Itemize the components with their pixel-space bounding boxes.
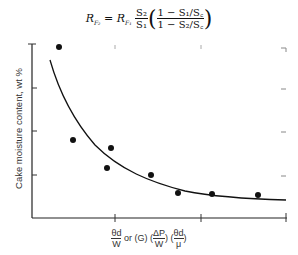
x-label-end: ) xyxy=(184,233,187,243)
x-axis-label: θdW or (G) (ΔPW) (θdμ) xyxy=(0,228,298,249)
x-frac3-num: θd xyxy=(174,228,184,239)
x-frac2-num: ΔP xyxy=(153,228,165,239)
x-frac-2: ΔPW xyxy=(153,228,165,249)
x-frac-3: θdμ xyxy=(174,228,184,249)
y-axis-label: Cake moisture content, wt % xyxy=(13,59,24,199)
fitted-curve xyxy=(50,60,286,200)
y-ticks-right xyxy=(281,48,286,176)
x-ticks-top xyxy=(115,45,201,49)
x-label-mid2: ) ( xyxy=(165,233,174,243)
data-points xyxy=(56,44,261,198)
x-label-mid: or (G) ( xyxy=(121,233,153,243)
x-frac2-den: W xyxy=(153,239,165,249)
x-frac1-num: θd xyxy=(111,228,121,239)
x-frac1-den: W xyxy=(111,239,121,249)
x-frac3-den: μ xyxy=(174,239,184,249)
chart xyxy=(0,0,298,255)
x-frac-1: θdW xyxy=(111,228,121,249)
